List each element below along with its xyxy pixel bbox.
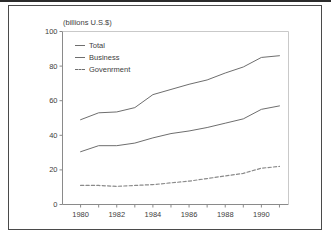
y-tick-label: 0	[36, 200, 58, 209]
y-tick-label: 80	[36, 62, 58, 71]
y-tick-label: 100	[36, 27, 58, 36]
series-line-govenrment	[81, 166, 280, 186]
legend-swatch-business	[75, 57, 85, 58]
y-tick-label: 60	[36, 96, 58, 105]
y-axis-unit-label: (billions U.S.$)	[63, 18, 112, 27]
x-tick-label: 1990	[246, 210, 276, 219]
series-line-business	[81, 106, 280, 152]
chart-series	[81, 56, 280, 187]
x-tick-label: 1982	[102, 210, 132, 219]
x-tick-label: 1980	[66, 210, 96, 219]
legend-swatch-total	[75, 45, 85, 46]
y-tick-label: 20	[36, 165, 58, 174]
x-tick-label: 1986	[174, 210, 204, 219]
y-tick-label: 40	[36, 131, 58, 140]
x-tick-label: 1988	[210, 210, 240, 219]
legend-label-business: Business	[89, 53, 119, 62]
legend-swatch-govenrment	[75, 69, 85, 70]
legend-label-govenrment: Govenrment	[89, 65, 130, 74]
x-tick-label: 1984	[138, 210, 168, 219]
legend-label-total: Total	[89, 41, 105, 50]
